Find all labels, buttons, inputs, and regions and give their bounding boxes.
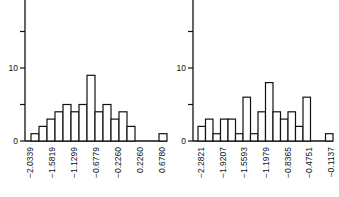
histogram-bar <box>63 105 71 142</box>
x-tick-label: −0.1137 <box>326 147 336 178</box>
histogram-bar <box>288 112 296 141</box>
histogram-bar <box>47 119 55 141</box>
histogram-bar <box>213 134 221 141</box>
histogram-right: 010−2.2821−1.9207−1.5593−1.1979−0.8365−0… <box>168 0 339 197</box>
y-tick-label: 0 <box>181 136 186 146</box>
histogram-bar <box>198 126 206 141</box>
histogram-bar <box>39 126 47 141</box>
histogram-bar <box>111 119 119 141</box>
histogram-bar <box>296 126 304 141</box>
x-tick-label: −1.1979 <box>261 147 271 178</box>
histogram-bar <box>206 119 214 141</box>
histogram-left-svg: 010−2.0339−1.5819−1.1299−0.6779−0.22600.… <box>0 0 170 197</box>
histogram-left: 010−2.0339−1.5819−1.1299−0.6779−0.22600.… <box>0 0 170 197</box>
x-tick-label: −0.2260 <box>113 147 123 178</box>
x-tick-label: −0.8365 <box>283 147 293 178</box>
histogram-bar <box>251 134 259 141</box>
histogram-bar <box>221 119 229 141</box>
histogram-bar <box>87 75 95 141</box>
histogram-bar <box>127 126 135 141</box>
histogram-bar <box>119 112 127 141</box>
histogram-bar <box>243 97 251 141</box>
x-tick-label: −2.2821 <box>196 147 206 178</box>
x-tick-label: 0.2260 <box>135 147 145 173</box>
histogram-bar <box>236 134 244 141</box>
histogram-bar <box>258 112 266 141</box>
y-tick-label: 10 <box>177 63 187 73</box>
x-tick-label: −1.1299 <box>69 147 79 178</box>
histogram-bar <box>281 119 289 141</box>
x-tick-label: −1.5593 <box>239 147 249 178</box>
histogram-bar <box>31 134 39 141</box>
histogram-bar <box>103 105 111 142</box>
histogram-bar <box>303 97 311 141</box>
histogram-bar <box>326 134 334 141</box>
histogram-bar <box>95 112 103 141</box>
histogram-bar <box>159 134 167 141</box>
y-tick-label: 0 <box>13 136 18 146</box>
histogram-right-svg: 010−2.2821−1.9207−1.5593−1.1979−0.8365−0… <box>168 0 339 197</box>
histogram-bar <box>273 112 281 141</box>
x-tick-label: −1.9207 <box>218 147 228 178</box>
histogram-bar <box>71 112 79 141</box>
histogram-bar <box>79 105 87 142</box>
x-tick-label: 0.6780 <box>157 147 167 173</box>
histogram-bar <box>228 119 236 141</box>
x-tick-label: −2.0339 <box>25 147 35 178</box>
x-tick-label: −1.5819 <box>47 147 57 178</box>
histogram-bar <box>55 112 63 141</box>
y-tick-label: 10 <box>9 63 19 73</box>
x-tick-label: −0.6779 <box>91 147 101 178</box>
histogram-bar <box>266 83 274 141</box>
x-tick-label: −0.4751 <box>304 147 314 178</box>
